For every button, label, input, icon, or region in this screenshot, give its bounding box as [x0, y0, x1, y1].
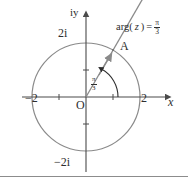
arg-equals: =: [146, 22, 152, 33]
y-tick-label-minus-2i: −2i: [54, 156, 70, 168]
arg-value-numerator: π: [154, 19, 160, 27]
x-tick-label-2: 2: [141, 92, 147, 104]
angle-fraction: π 3: [91, 76, 97, 92]
origin-label: O: [76, 99, 85, 111]
point-a-label: A: [120, 40, 129, 52]
ray-arrowhead: [99, 58, 109, 75]
angle-label: π 3: [91, 75, 97, 92]
arg-annotation: arg(z) = π 3: [116, 19, 160, 36]
arg-value-fraction: π 3: [154, 19, 160, 36]
arg-suffix: ): [141, 22, 145, 33]
bottom-divider: [0, 176, 188, 177]
y-axis-label: iy: [70, 7, 79, 18]
angle-denominator: 3: [91, 84, 97, 92]
point-a-marker: [112, 49, 114, 51]
arg-variable: z: [135, 22, 139, 33]
x-tick-label-minus-2: −2: [25, 92, 38, 104]
x-axis-label: x: [168, 96, 173, 108]
angle-arc: [102, 69, 118, 97]
arg-value-denominator: 3: [154, 27, 160, 36]
y-tick-label-2i: 2i: [58, 27, 67, 39]
angle-numerator: π: [91, 76, 97, 83]
arg-prefix: arg(: [116, 22, 133, 33]
